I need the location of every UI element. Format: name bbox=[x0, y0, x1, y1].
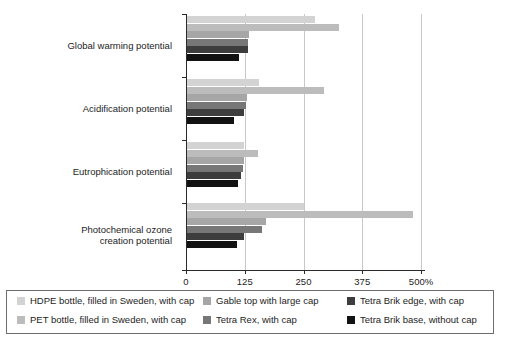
legend-swatch-icon-2 bbox=[203, 297, 211, 305]
category-label-2-line1: Eutrophication potential bbox=[73, 166, 172, 177]
category-label-0: Global warming potential bbox=[0, 40, 172, 51]
bar-g3-s1 bbox=[186, 211, 413, 218]
bar-g2-s2 bbox=[186, 157, 244, 164]
bar-g3-s3 bbox=[186, 226, 262, 233]
legend-swatch-icon-3 bbox=[203, 316, 211, 324]
category-label-2: Eutrophication potential bbox=[0, 166, 172, 177]
bar-g0-s0 bbox=[186, 16, 315, 23]
legend-swatch-icon-1 bbox=[17, 316, 25, 324]
legend-label-0: HDPE bottle, filled in Sweden, with cap bbox=[30, 296, 194, 306]
y-tick-3 bbox=[182, 203, 186, 204]
bars-container bbox=[186, 14, 421, 270]
bar-group-0 bbox=[186, 16, 421, 62]
legend-swatch-icon-5 bbox=[347, 316, 355, 324]
bar-g0-s1 bbox=[186, 24, 339, 31]
x-tick-label-500: 500% bbox=[399, 276, 443, 287]
legend-label-2: Gable top with large cap bbox=[216, 296, 318, 306]
y-axis-line bbox=[186, 14, 187, 270]
bar-g3-s2 bbox=[186, 218, 266, 225]
bar-g2-s0 bbox=[186, 142, 244, 149]
x-tick-500 bbox=[421, 270, 422, 274]
bar-g2-s5 bbox=[186, 180, 238, 187]
category-label-0-line1: Global warming potential bbox=[67, 40, 172, 51]
y-tick-2 bbox=[182, 140, 186, 141]
y-tick-1 bbox=[182, 77, 186, 78]
bar-group-3 bbox=[186, 203, 421, 249]
x-tick-label-375: 375 bbox=[340, 276, 384, 287]
category-axis-labels: Global warming potential Acidification p… bbox=[0, 0, 182, 272]
x-axis-line bbox=[186, 270, 425, 271]
legend-swatch-icon-4 bbox=[347, 297, 355, 305]
category-label-3: Photochemical ozone creation potential bbox=[0, 224, 172, 246]
bar-g1-s1 bbox=[186, 87, 324, 94]
x-tick-label-250: 250 bbox=[282, 276, 326, 287]
y-tick-4 bbox=[182, 270, 186, 271]
bar-g0-s2 bbox=[186, 31, 249, 38]
bar-group-1 bbox=[186, 79, 421, 125]
bar-g3-s5 bbox=[186, 241, 237, 248]
legend-item-1[interactable]: PET bottle, filled in Sweden, with cap bbox=[17, 315, 186, 325]
legend-label-1: PET bottle, filled in Sweden, with cap bbox=[30, 315, 186, 325]
legend-item-4[interactable]: Tetra Brik edge, with cap bbox=[347, 296, 464, 306]
bar-g0-s5 bbox=[186, 54, 239, 61]
bar-g1-s3 bbox=[186, 102, 246, 109]
plot-area: Global warming potential Acidification p… bbox=[0, 0, 505, 283]
category-label-3-line2: creation potential bbox=[0, 235, 172, 246]
legend-item-3[interactable]: Tetra Rex, with cap bbox=[203, 315, 297, 325]
bar-g1-s0 bbox=[186, 79, 259, 86]
legend-label-4: Tetra Brik edge, with cap bbox=[360, 296, 464, 306]
bar-group-2 bbox=[186, 142, 421, 188]
x-tick-125 bbox=[245, 270, 246, 274]
legend: HDPE bottle, filled in Sweden, with capP… bbox=[6, 290, 494, 334]
chart-root: Global warming potential Acidification p… bbox=[0, 0, 505, 344]
bar-g1-s5 bbox=[186, 117, 234, 124]
bar-g0-s3 bbox=[186, 39, 248, 46]
legend-item-5[interactable]: Tetra Brik base, without cap bbox=[347, 315, 477, 325]
category-label-1: Acidification potential bbox=[0, 103, 172, 114]
bar-g1-s2 bbox=[186, 94, 247, 101]
legend-swatch-icon-0 bbox=[17, 297, 25, 305]
x-tick-0 bbox=[186, 270, 187, 274]
x-tick-250 bbox=[304, 270, 305, 274]
bar-g1-s4 bbox=[186, 109, 244, 116]
bar-g3-s0 bbox=[186, 203, 304, 210]
x-tick-label-0: 0 bbox=[164, 276, 208, 287]
bar-g0-s4 bbox=[186, 46, 248, 53]
bar-g2-s3 bbox=[186, 165, 243, 172]
x-tick-label-125: 125 bbox=[223, 276, 267, 287]
legend-label-5: Tetra Brik base, without cap bbox=[360, 315, 477, 325]
bar-g2-s1 bbox=[186, 150, 258, 157]
category-label-3-line1: Photochemical ozone bbox=[0, 224, 172, 235]
legend-item-0[interactable]: HDPE bottle, filled in Sweden, with cap bbox=[17, 296, 194, 306]
x-tick-375 bbox=[362, 270, 363, 274]
bar-g2-s4 bbox=[186, 172, 241, 179]
y-tick-0 bbox=[182, 14, 186, 15]
legend-item-2[interactable]: Gable top with large cap bbox=[203, 296, 318, 306]
bar-g3-s4 bbox=[186, 233, 244, 240]
legend-label-3: Tetra Rex, with cap bbox=[216, 315, 297, 325]
category-label-1-line1: Acidification potential bbox=[83, 103, 172, 114]
gridline-500 bbox=[421, 14, 422, 270]
